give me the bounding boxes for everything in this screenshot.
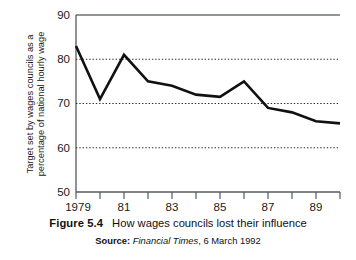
source-publication: Financial Times — [133, 235, 199, 246]
x-axis-tick-labels: 1979 81 83 85 87 89 — [65, 201, 322, 213]
x-tick-label: 85 — [214, 201, 227, 213]
y-axis-tick-labels: 90 80 70 60 50 — [57, 9, 70, 198]
line-chart: Target set by wages councils as a percen… — [0, 0, 356, 215]
x-tick-label: 83 — [166, 201, 179, 213]
x-tick-label: 89 — [310, 201, 323, 213]
figure-container: Target set by wages councils as a percen… — [0, 0, 356, 260]
y-axis-title-line1: Target set by wages councils as a — [25, 34, 35, 174]
y-tick-label: 60 — [57, 142, 70, 154]
caption-block: Figure 5.4How wages councils lost their … — [0, 216, 356, 247]
x-tick-label: 87 — [262, 201, 275, 213]
x-axis-ticks — [76, 192, 340, 199]
y-axis-title-line2: percentage of national hourly wage — [36, 32, 46, 177]
data-series-line — [76, 46, 340, 123]
x-tick-label: 81 — [118, 201, 131, 213]
y-tick-label: 50 — [57, 186, 70, 198]
y-tick-label: 80 — [57, 53, 70, 65]
y-axis-title: Target set by wages councils as a percen… — [25, 32, 46, 177]
source-date: , 6 March 1992 — [198, 235, 261, 246]
figure-title: How wages councils lost their influence — [112, 217, 307, 229]
source-line: Source: Financial Times, 6 March 1992 — [0, 235, 356, 247]
y-tick-label: 70 — [57, 97, 70, 109]
x-tick-label: 1979 — [65, 201, 91, 213]
source-label: Source: — [95, 235, 130, 246]
figure-caption: Figure 5.4How wages councils lost their … — [0, 216, 356, 231]
y-tick-label: 90 — [57, 9, 70, 21]
figure-number: Figure 5.4 — [49, 217, 103, 229]
